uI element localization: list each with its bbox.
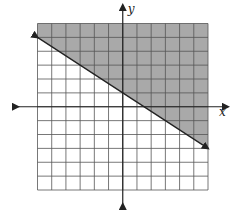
y-axis-label: y: [127, 2, 135, 16]
x-axis-label: x: [219, 105, 226, 119]
inequality-graph: x y: [0, 0, 238, 219]
